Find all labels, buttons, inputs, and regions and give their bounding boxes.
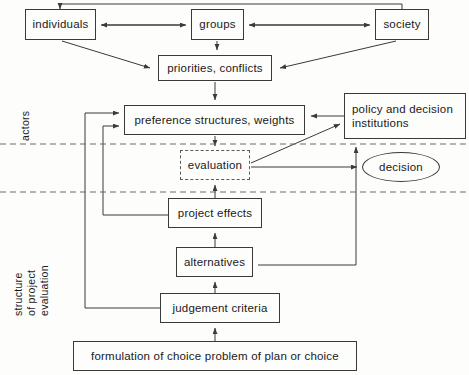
edge-criteria-to-preference-feedback — [85, 113, 160, 308]
node-society[interactable]: society — [375, 9, 429, 40]
diagram-canvas: individuals groups society priorities, c… — [0, 0, 469, 375]
band-label-actors: actors — [19, 111, 31, 141]
edge-alternatives-to-decision-feedback — [258, 147, 356, 265]
node-preference-structures-weights[interactable]: preference structures, weights — [124, 105, 305, 135]
node-policy-and-decision-institutions[interactable]: policy and decision institutions — [344, 93, 466, 139]
node-individuals[interactable]: individuals — [25, 9, 96, 40]
node-judgement-criteria[interactable]: judgement criteria — [160, 293, 280, 323]
node-project-effects[interactable]: project effects — [168, 198, 262, 228]
node-priorities-conflicts[interactable]: priorities, conflicts — [158, 55, 272, 81]
node-decision[interactable]: decision — [362, 152, 440, 182]
node-groups[interactable]: groups — [191, 9, 244, 40]
node-alternatives[interactable]: alternatives — [176, 247, 253, 277]
edge-individuals-to-priorities — [62, 41, 150, 68]
band-label-structure-of-project-evaluation: structure of project evaluation — [12, 265, 50, 316]
edge-effects-to-preference-feedback — [103, 126, 168, 215]
node-formulation-of-choice-problem[interactable]: formulation of choice problem of plan or… — [73, 341, 357, 371]
node-evaluation[interactable]: evaluation — [180, 150, 250, 180]
edge-society-to-priorities — [280, 41, 396, 68]
